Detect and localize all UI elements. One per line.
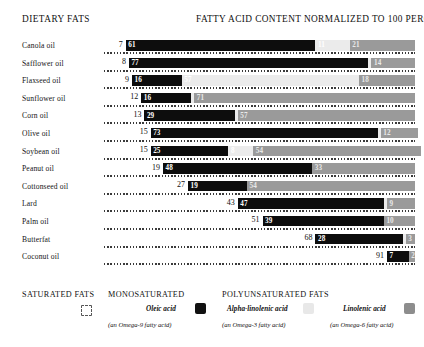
bar-segment-value: 7	[390, 251, 394, 261]
bar-segment-mono: 16	[132, 75, 182, 86]
row-label-soybean-oil: Soybean oil	[22, 147, 60, 156]
linolenic-swatch-icon	[404, 303, 415, 314]
legend-heading-polyunsaturated: POLYUNSATURATED FATS	[222, 290, 329, 299]
row-label-butterfat: Butterfat	[22, 235, 50, 244]
stacked-bar: 4833	[104, 163, 415, 174]
bar-segment-value: 3	[408, 234, 412, 244]
alpha-linolenic-swatch-icon	[303, 303, 314, 314]
bar-segment-mono: 61	[126, 40, 316, 51]
bar-segment-value: 28	[318, 234, 325, 244]
bar-segment-mono: 48	[163, 163, 312, 174]
row-baseline-dots	[104, 140, 415, 142]
bar-segment-value: 9	[390, 199, 394, 209]
chart-row: Soybean oil1525854	[0, 144, 424, 162]
row-label-corn-oil: Corn oil	[22, 111, 48, 120]
bar-segment-mono: 25	[151, 146, 229, 157]
bar-segment-value: 18	[362, 75, 369, 85]
bar-segment-ala: 8	[228, 146, 253, 157]
row-baseline-dots	[104, 70, 415, 72]
bar-segment-value: 14	[374, 58, 381, 68]
row-baseline-dots	[104, 175, 415, 177]
bar-segment-mono: 7	[387, 251, 409, 262]
stacked-bar: 73112	[104, 128, 415, 139]
bar-segment-value: 25	[153, 146, 160, 156]
stacked-bar: 29157	[104, 110, 415, 121]
stacked-bar: 611121	[104, 40, 415, 51]
bar-segment-value: 19	[190, 181, 197, 191]
bar-segment-la: 10	[384, 216, 415, 227]
legend-label-linolenic-acid: Linolenic acid	[343, 305, 386, 313]
bar-segment-la: 33	[312, 163, 415, 174]
row-label-peanut-oil: Peanut oil	[22, 164, 54, 173]
chart-row: Safflower oil877114	[0, 56, 424, 74]
bar-segment-la: 12	[381, 128, 418, 139]
row-label-cottonseed-oil: Cottonseed oil	[22, 182, 68, 191]
legend-heading-monounsaturated: MONOSATURATED	[108, 290, 184, 299]
bar-segment-value: 57	[184, 75, 191, 85]
stacked-bar: 165718	[104, 75, 415, 86]
bar-segment-la: 3	[406, 234, 415, 245]
chart-row: Butterfat682813	[0, 232, 424, 250]
row-baseline-dots	[104, 246, 415, 248]
bar-segment-value: 73	[153, 128, 160, 138]
stacked-bar: 3910	[104, 216, 415, 227]
row-label-sunflower-oil: Sunflower oil	[22, 94, 66, 103]
bar-segment-value: 57	[240, 111, 247, 121]
stacked-bar: 16171	[104, 93, 415, 104]
chart-header: DIETARY FATS FATTY ACID CONTENT NORMALIZ…	[0, 14, 424, 30]
legend-sub-alpha-linolenic-acid: (an Omega-3 fatty acid)	[222, 321, 286, 328]
chart-row: Corn oil1329157	[0, 108, 424, 126]
bar-segment-la: 9	[387, 198, 415, 209]
row-baseline-dots	[104, 228, 415, 230]
chart-plot-area: Canola oil7611121Safflower oil877114Flax…	[0, 38, 424, 286]
row-label-flaxseed-oil: Flaxseed oil	[22, 76, 61, 85]
bar-segment-mono: 19	[188, 181, 247, 192]
bar-segment-value: 8	[231, 146, 235, 156]
bar-segment-value: 77	[131, 58, 138, 68]
row-baseline-dots	[104, 193, 415, 195]
bar-segment-ala: 57	[182, 75, 359, 86]
chart-title: FATTY ACID CONTENT NORMALIZED TO 100 PER…	[196, 14, 424, 24]
chart-row: Coconut oil9172	[0, 249, 424, 267]
bar-segment-mono: 29	[144, 110, 234, 121]
chart-row: Peanut oil194833	[0, 161, 424, 179]
bar-segment-la: 71	[194, 93, 415, 104]
bar-segment-la: 21	[350, 40, 415, 51]
bar-segment-mono: 16	[141, 93, 191, 104]
bar-segment-value: 71	[197, 93, 204, 103]
stacked-bar: 2813	[104, 234, 415, 245]
bar-segment-la: 18	[359, 75, 415, 86]
chart-legend: SATURATED FATS MONOSATURATED Oleic acid …	[0, 290, 424, 345]
bar-segment-value: 48	[166, 163, 173, 173]
legend-heading-saturated: SATURATED FATS	[22, 290, 94, 299]
bar-segment-mono: 73	[151, 128, 378, 139]
bar-segment-value: 47	[240, 199, 247, 209]
legend-label-oleic-acid: Oleic acid	[146, 305, 176, 313]
saturated-swatch-icon	[81, 305, 92, 316]
row-label-palm-oil: Palm oil	[22, 217, 49, 226]
chart-row: Flaxseed oil9165718	[0, 73, 424, 91]
stacked-bar: 72	[104, 251, 415, 262]
legend-sub-linolenic-acid: (an Omega-6 fatty acid)	[330, 321, 394, 328]
legend-sub-oleic-acid: (an Omega-9 fatty acid)	[108, 321, 172, 328]
bar-segment-value: 54	[250, 181, 257, 191]
bar-segment-value: 11	[318, 40, 325, 50]
chart-row: Sunflower oil1216171	[0, 91, 424, 109]
stacked-bar: 25854	[104, 146, 415, 157]
bar-segment-value: 10	[386, 216, 393, 226]
bar-segment-value: 16	[144, 93, 151, 103]
legend-label-alpha-linolenic-acid: Alpha-linolenic acid	[227, 305, 288, 313]
bar-segment-mono: 77	[129, 58, 368, 69]
bar-segment-la: 54	[247, 181, 415, 192]
row-baseline-dots	[104, 105, 415, 107]
chart-row: Palm oil513910	[0, 214, 424, 232]
bar-segment-la: 57	[238, 110, 415, 121]
bar-segment-mono: 39	[263, 216, 384, 227]
bar-segment-value: 12	[383, 128, 390, 138]
row-label-canola-oil: Canola oil	[22, 41, 55, 50]
chart-row: Lard434719	[0, 196, 424, 214]
page-title: DIETARY FATS	[22, 14, 90, 24]
oleic-swatch-icon	[195, 303, 206, 314]
row-baseline-dots	[104, 52, 415, 54]
bar-segment-mono: 28	[315, 234, 402, 245]
